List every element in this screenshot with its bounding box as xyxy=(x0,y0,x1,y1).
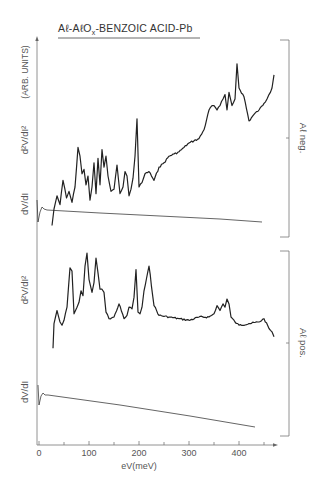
lower-dvdi-curve xyxy=(38,385,255,427)
x-tick-label: 0 xyxy=(36,448,41,458)
lower-d2v-trace xyxy=(53,253,274,348)
x-axis-label: eV(meV) xyxy=(121,461,157,471)
lower-bracket: Aℓ pos. xyxy=(280,251,309,436)
lower-d1-label: dV/dI xyxy=(19,381,30,403)
upper-bracket-label: Aℓ neg. xyxy=(298,123,309,154)
x-ticks: 0100200300400 xyxy=(36,441,264,458)
spectrum-figure: Aℓ-AℓOx-BENZOIC ACID-Pb 0100200300400 eV… xyxy=(0,0,326,489)
x-tick-label: 300 xyxy=(181,448,196,458)
upper-bracket: Aℓ neg. xyxy=(280,40,309,237)
x-axis: 0100200300400 eV(meV) xyxy=(36,441,278,471)
upper-d2-label: d²V/dI² xyxy=(19,126,30,155)
left-labels: (ARB. UNITS) d²V/dI² dV/dI d²V/dI² dV/dI xyxy=(19,45,30,403)
lower-d2-label: d²V/dI² xyxy=(19,276,30,305)
y-units-label: (ARB. UNITS) xyxy=(20,45,30,99)
y-axis xyxy=(35,36,38,445)
y-axis-arrow-icon xyxy=(35,36,38,41)
upper-d1-label: dV/dI xyxy=(19,193,30,215)
upper-dvdi-curve xyxy=(37,200,262,222)
x-tick-label: 400 xyxy=(231,448,246,458)
title-part-2: -BENZOIC ACID-Pb xyxy=(95,22,192,34)
upper-d2v-trace xyxy=(52,64,274,226)
x-axis-arrow-icon xyxy=(273,443,278,446)
svg-text:Aℓ-AℓOx-BENZOIC ACID-Pb: Aℓ-AℓOx-BENZOIC ACID-Pb xyxy=(58,22,193,36)
chart-title: Aℓ-AℓOx-BENZOIC ACID-Pb xyxy=(58,22,200,38)
x-tick-label: 200 xyxy=(131,448,146,458)
lower-bracket-label: Aℓ pos. xyxy=(298,328,309,358)
x-tick-label: 100 xyxy=(81,448,96,458)
title-part-1: Aℓ-AℓO xyxy=(58,22,92,34)
